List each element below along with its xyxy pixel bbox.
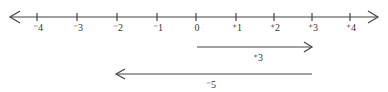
tick-label: ⁻3	[73, 22, 83, 33]
vector-plus-3-label: ⁺3	[253, 52, 263, 63]
tick-label: ⁺4	[346, 22, 356, 33]
tick-label: ⁻4	[33, 22, 43, 33]
tick-label: ⁻1	[153, 22, 163, 33]
tick-label: ⁺2	[270, 22, 280, 33]
number-line-graphic	[0, 0, 388, 92]
tick-label: 0	[195, 22, 200, 33]
tick-label: ⁺1	[232, 22, 242, 33]
tick-label: ⁺3	[308, 22, 318, 33]
vector-minus-5-label: ⁻5	[206, 79, 216, 90]
number-line-diagram: ⁻4⁻3⁻2⁻10⁺1⁺2⁺3⁺4 ⁺3 ⁻5	[0, 0, 388, 92]
tick-label: ⁻2	[113, 22, 123, 33]
